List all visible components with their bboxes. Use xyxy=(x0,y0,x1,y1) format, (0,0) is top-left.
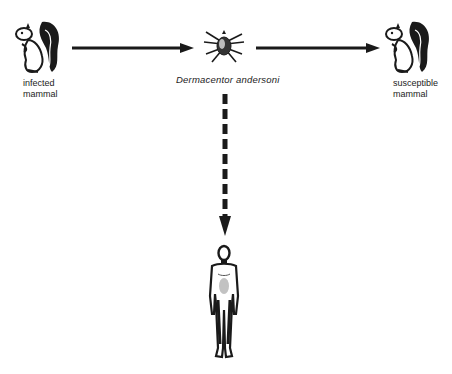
tick-species-label: Dermacentor andersoni xyxy=(176,74,279,85)
dashed-arrow-tick-to-human xyxy=(218,94,232,238)
arrow-infected-to-tick xyxy=(72,42,196,54)
squirrel-icon xyxy=(384,18,432,74)
tick-node xyxy=(202,28,246,64)
tick-icon xyxy=(202,28,246,64)
susceptible-mammal-label: susceptible mammal xyxy=(393,78,438,100)
infected-mammal-label: infected mammal xyxy=(23,78,58,100)
susceptible-mammal-node xyxy=(384,18,432,74)
squirrel-icon xyxy=(14,18,62,74)
infected-mammal-node xyxy=(14,18,62,74)
human-figure-icon xyxy=(204,244,244,362)
human-node xyxy=(204,244,244,362)
arrow-tick-to-susceptible xyxy=(256,42,382,54)
